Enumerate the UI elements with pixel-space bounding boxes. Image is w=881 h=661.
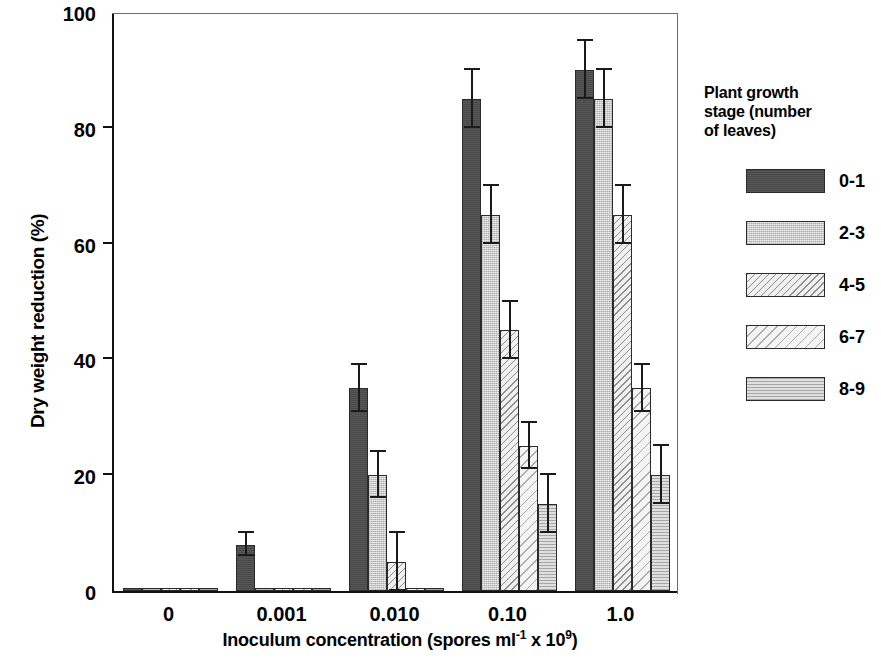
x-axis-title: Inoculum concentration (spores ml-1 x 10…: [70, 630, 730, 651]
legend-item: 4-5: [700, 259, 881, 311]
x-axis-tick-label: 0.010: [330, 604, 460, 624]
x-axis-title-main: Inoculum concentration (spores ml: [222, 630, 515, 650]
bar: [462, 99, 481, 591]
x-axis-title-end: ): [572, 630, 578, 650]
error-bar-cap-lower: [596, 126, 612, 128]
error-bar-cap-upper: [483, 184, 499, 186]
legend-label: 4-5: [839, 276, 865, 294]
error-bar-cap-lower: [389, 589, 405, 591]
bar-group: [227, 14, 340, 591]
error-bar-cap-lower: [521, 467, 537, 469]
error-bar-cap-lower: [653, 502, 669, 504]
legend-label: 6-7: [839, 328, 865, 346]
error-bar-cap-upper: [370, 450, 386, 452]
error-bar-cap-upper: [540, 473, 556, 475]
y-axis-tick-label: 0: [26, 583, 96, 603]
error-bar: [245, 533, 247, 556]
error-bar: [641, 365, 643, 411]
legend-swatch: [746, 221, 825, 245]
error-bar-cap-upper: [615, 184, 631, 186]
legend-label: 0-1: [839, 172, 865, 190]
x-axis-title-sup-inverse: -1: [516, 628, 526, 642]
x-axis-tick-label: 0: [104, 604, 234, 624]
bar: [142, 588, 161, 591]
bar: [594, 99, 613, 591]
x-axis-tick-label: 0.001: [217, 604, 347, 624]
error-bar-cap-lower: [634, 410, 650, 412]
error-bar: [509, 302, 511, 360]
bar: [274, 588, 293, 591]
y-axis-tick: [103, 242, 114, 244]
bar-group: [340, 14, 453, 591]
error-bar-cap-lower: [502, 357, 518, 359]
x-axis-tick-label: 1.0: [556, 604, 686, 624]
legend-item: 0-1: [700, 155, 881, 207]
error-bar-cap-upper: [596, 68, 612, 70]
legend-label: 8-9: [839, 380, 865, 398]
error-bar-cap-upper: [653, 444, 669, 446]
bar: [632, 388, 651, 591]
legend-title: Plant growth stage (number of leaves): [704, 84, 881, 141]
bar: [425, 588, 444, 591]
y-axis-tick: [103, 473, 114, 475]
error-bar-cap-upper: [464, 68, 480, 70]
bar-group: [114, 14, 227, 591]
error-bar: [528, 423, 530, 469]
error-bar-cap-lower: [577, 97, 593, 99]
y-axis-tick-label: 100: [26, 4, 96, 24]
error-bar: [622, 186, 624, 244]
legend-item: 8-9: [700, 363, 881, 415]
bar: [406, 588, 425, 591]
error-bar: [490, 186, 492, 244]
error-bar: [471, 70, 473, 128]
bar: [293, 588, 312, 591]
error-bar: [396, 533, 398, 591]
error-bar-cap-lower: [238, 554, 254, 556]
y-axis-tick-label: 40: [26, 351, 96, 371]
legend-swatch: [746, 325, 825, 349]
error-bar: [377, 452, 379, 498]
error-bar-cap-upper: [521, 421, 537, 423]
bar: [123, 588, 142, 591]
error-bar-cap-upper: [577, 39, 593, 41]
error-bar: [603, 70, 605, 128]
bar: [199, 588, 218, 591]
error-bar: [584, 41, 586, 99]
error-bar-cap-lower: [351, 410, 367, 412]
error-bar-cap-lower: [464, 126, 480, 128]
legend-title-line-1: Plant growth: [704, 84, 881, 103]
bar: [481, 215, 500, 591]
error-bar: [660, 446, 662, 504]
bar: [161, 588, 180, 591]
bar-chart-figure: Dry weight reduction (%) 020406080100 00…: [0, 0, 881, 661]
y-axis-tick-label: 60: [26, 236, 96, 256]
error-bar-cap-lower: [615, 242, 631, 244]
y-axis-tick-label: 80: [26, 120, 96, 140]
y-axis-tick: [103, 357, 114, 359]
legend-title-line-2: stage (number: [704, 103, 881, 122]
legend-item: 2-3: [700, 207, 881, 259]
bar: [500, 330, 519, 591]
error-bar-cap-lower: [370, 496, 386, 498]
error-bar-cap-upper: [634, 363, 650, 365]
bar: [613, 215, 632, 591]
bar: [255, 588, 274, 591]
y-axis-title: Dry weight reduction (%): [27, 131, 49, 511]
bar: [349, 388, 368, 591]
plot-area: [112, 14, 677, 593]
error-bar-cap-lower: [540, 531, 556, 533]
legend-item: 6-7: [700, 311, 881, 363]
legend-title-line-3: of leaves): [704, 122, 881, 141]
bar-group: [453, 14, 566, 591]
error-bar-cap-upper: [502, 300, 518, 302]
y-axis-tick-label: 20: [26, 467, 96, 487]
legend-label: 2-3: [839, 224, 865, 242]
error-bar: [547, 475, 549, 533]
y-axis-tick: [103, 126, 114, 128]
legend-swatch: [746, 377, 825, 401]
legend-items: 0-12-34-56-78-9: [700, 155, 881, 415]
error-bar: [358, 365, 360, 411]
bar: [180, 588, 199, 591]
error-bar-cap-upper: [238, 531, 254, 533]
legend: Plant growth stage (number of leaves) 0-…: [700, 84, 881, 415]
